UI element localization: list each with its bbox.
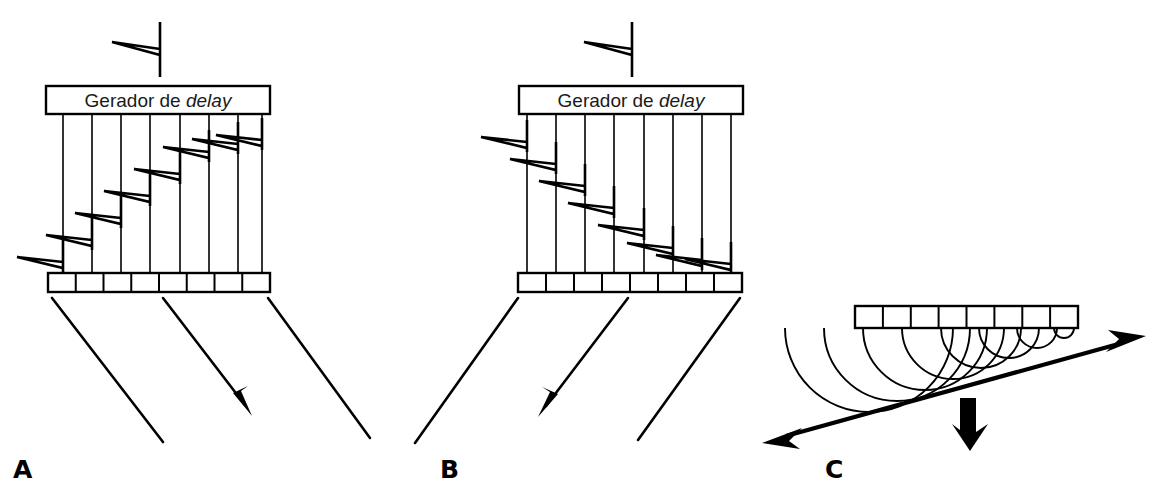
panel-c-propagation-arrow [952, 398, 988, 451]
panel-a-delay-generator: Gerador de delay [46, 86, 270, 114]
panel-b-delayed-pulses [481, 120, 731, 274]
beam-line [415, 298, 518, 443]
panel-a-input-pulse [112, 22, 160, 77]
pulse-waveform-icon [112, 22, 160, 77]
wavelet-arc [863, 328, 987, 390]
panel-b-beam-lines [415, 298, 740, 443]
beam-line-with-arrow [163, 298, 245, 405]
delayed-pulse [163, 130, 209, 162]
beam-arrowhead-icon [538, 387, 558, 417]
panel-a: Gerador de delay [13, 22, 370, 484]
beam-line [638, 298, 740, 440]
propagation-arrow-icon [952, 398, 988, 451]
wavefront-arrowhead-right-icon [1106, 330, 1146, 352]
delay-generator-label: Gerador de delay [558, 90, 706, 111]
beam-arrowhead-icon [233, 386, 252, 416]
delay-generator-label-prefix: Gerador de [85, 90, 186, 111]
delay-generator-label-emphasis: delay [186, 90, 233, 111]
delayed-pulse [134, 152, 180, 184]
delayed-pulse [17, 240, 63, 272]
panel-b-input-pulse [584, 22, 632, 77]
wavelet-arc [979, 328, 1039, 358]
panel-a-beam-lines [52, 298, 370, 442]
panel-a-delayed-pulses [17, 118, 262, 272]
panel-label-c: C [825, 455, 843, 484]
delayed-pulse [46, 218, 92, 250]
panel-c-wavefront [762, 330, 1146, 449]
panel-c-transducer-array [855, 306, 1078, 328]
panel-b-channel-lines [527, 114, 731, 273]
panel-b-delay-generator: Gerador de delay [519, 86, 743, 114]
panel-b: Gerador de delay [415, 22, 743, 484]
beam-line-with-arrow [546, 298, 628, 406]
panel-label-a: A [13, 455, 33, 484]
delayed-pulse [75, 196, 121, 228]
beam-line [268, 298, 370, 438]
pulse-waveform-icon [584, 22, 632, 77]
delayed-pulse [104, 174, 150, 206]
delayed-pulse [656, 238, 702, 270]
figure-root: Gerador de delay [0, 0, 1161, 496]
beam-line [52, 298, 163, 442]
panel-b-transducer-array [518, 273, 742, 292]
delayed-pulse [481, 120, 527, 152]
wavelet-arc [785, 328, 953, 412]
delay-generator-label-emphasis: delay [659, 90, 706, 111]
panel-a-transducer-array [48, 273, 270, 292]
phased-array-beam-steering-diagram: Gerador de delay [0, 0, 1161, 496]
wavefront-arrowhead-left-icon [762, 428, 802, 449]
delay-generator-label-prefix: Gerador de [558, 90, 659, 111]
delay-generator-label: Gerador de delay [85, 90, 233, 111]
delayed-pulse [627, 226, 673, 258]
panel-c: C [762, 306, 1146, 484]
panel-label-b: B [440, 455, 459, 484]
